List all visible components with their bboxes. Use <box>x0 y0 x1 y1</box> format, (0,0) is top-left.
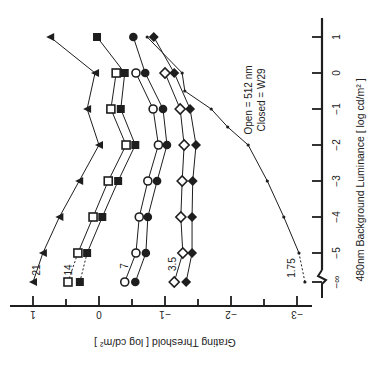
grating-threshold-chart: 10−1−2−3Grating Threshold [ log cd/m² ]1… <box>0 0 382 382</box>
square-open-marker <box>64 278 72 286</box>
diamond-filled-marker <box>169 68 179 78</box>
triangle-marker <box>83 105 91 113</box>
legend-closed: Closed = W29 <box>256 68 267 132</box>
circle-filled-marker <box>144 213 153 222</box>
circle-filled-marker <box>163 141 172 150</box>
dot-marker <box>282 215 285 218</box>
dot-marker <box>210 107 213 110</box>
circle-filled-marker <box>142 249 151 258</box>
threshold-axis-label: Grating Threshold [ log cd/m² ] <box>94 337 236 349</box>
diamond-open-marker <box>176 212 186 222</box>
diamond-filled-marker <box>191 140 201 150</box>
triangle-marker <box>39 249 47 257</box>
series-label: 3.5 <box>167 257 178 271</box>
dot-marker <box>181 71 184 74</box>
threshold-tick-label: −2 <box>225 309 237 320</box>
threshold-tick-label: 1 <box>30 309 36 320</box>
triangle-marker <box>75 177 83 185</box>
square-filled-marker <box>83 249 91 257</box>
dot-marker <box>303 280 306 283</box>
series-label: 1.75 <box>286 258 297 278</box>
square-filled-marker <box>76 278 84 286</box>
square-filled-marker <box>131 141 139 149</box>
threshold-tick-label: −3 <box>291 309 303 320</box>
diamond-filled-marker <box>188 176 198 186</box>
circle-open-marker <box>154 141 162 149</box>
series-label: 14 <box>63 264 74 276</box>
triangle-marker <box>55 213 63 221</box>
circle-open-marker <box>121 278 129 286</box>
luminance-tick-label: 0 <box>331 70 342 76</box>
circle-open-marker <box>135 213 143 221</box>
dot-marker <box>297 251 300 254</box>
circle-filled-marker <box>141 69 150 78</box>
dot-marker <box>226 125 229 128</box>
luminance-tick-label: −4 <box>331 211 342 223</box>
circle-filled-marker <box>153 177 162 186</box>
circle-open-marker <box>149 105 157 113</box>
dot-marker <box>247 143 250 146</box>
square-filled-marker <box>117 105 125 113</box>
circle-filled-marker <box>129 33 138 42</box>
luminance-tick-label: −1 <box>331 103 342 115</box>
circle-filled-marker <box>159 105 168 114</box>
diamond-filled-marker <box>187 212 197 222</box>
diamond-open-marker <box>177 176 187 186</box>
threshold-tick-label: 0 <box>96 309 102 320</box>
triangle-marker <box>46 33 54 41</box>
square-open-marker <box>107 105 115 113</box>
square-filled-marker <box>114 177 122 185</box>
triangle-marker <box>95 141 103 149</box>
square-open-marker <box>112 69 120 77</box>
diamond-filled-marker <box>185 104 195 114</box>
luminance-axis-label: 480nm Background Luminance [ log cd/m² ] <box>354 78 366 281</box>
circle-open-marker <box>132 69 140 77</box>
legend-open: Open = 512 nm <box>243 65 254 134</box>
square-filled-marker <box>121 69 129 77</box>
square-open-marker <box>122 141 130 149</box>
luminance-tick-label: −3 <box>331 175 342 187</box>
diamond-open-marker <box>178 248 188 258</box>
circle-open-marker <box>144 177 152 185</box>
chart-canvas: 10−1−2−3Grating Threshold [ log cd/m² ]1… <box>0 0 382 382</box>
square-open-marker <box>74 249 82 257</box>
series-label: 7 <box>119 263 130 269</box>
diamond-filled-marker <box>187 248 197 258</box>
square-filled-marker <box>93 33 101 41</box>
luminance-tick-label: −2 <box>331 139 342 151</box>
square-open-marker <box>89 213 97 221</box>
luminance-tick-label: −∞ <box>331 276 342 289</box>
luminance-tick-label: −5 <box>331 247 342 259</box>
circle-filled-marker <box>131 278 140 287</box>
circle-open-marker <box>132 249 140 257</box>
square-open-marker <box>104 177 112 185</box>
diamond-open-marker <box>175 104 185 114</box>
threshold-tick-label: −1 <box>159 309 171 320</box>
dot-marker <box>266 179 269 182</box>
diamond-open-marker <box>169 277 179 287</box>
triangle-marker <box>29 278 37 286</box>
diamond-open-marker <box>160 68 170 78</box>
dot-marker <box>183 89 186 92</box>
dot-marker <box>146 35 149 38</box>
diamond-filled-marker <box>181 277 191 287</box>
series-label: 21 <box>31 264 42 276</box>
square-filled-marker <box>98 213 106 221</box>
luminance-tick-label: 1 <box>331 34 342 40</box>
diamond-open-marker <box>179 140 189 150</box>
